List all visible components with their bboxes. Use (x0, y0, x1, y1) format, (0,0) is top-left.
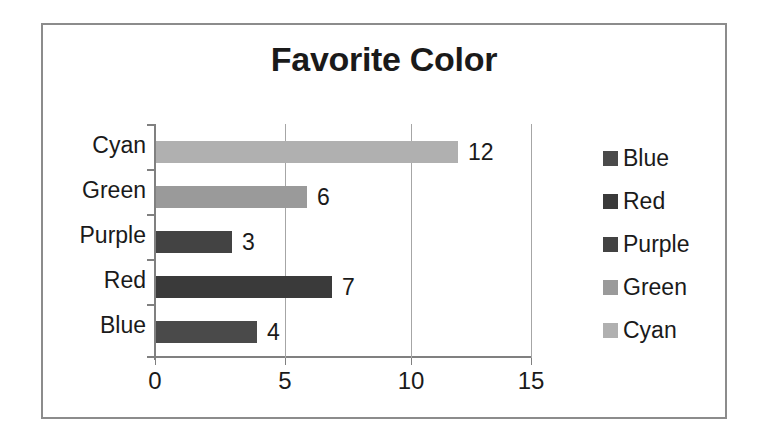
chart-title: Favorite Color (43, 41, 725, 78)
legend-swatch-icon-red (603, 194, 618, 209)
y-tick-2 (147, 214, 154, 216)
plot-area: 12 6 3 7 4 (154, 132, 532, 358)
x-tick-0 (155, 358, 156, 365)
data-label-blue: 4 (267, 321, 280, 343)
bar-red[interactable] (156, 276, 332, 298)
legend-item-purple[interactable]: Purple (603, 223, 723, 266)
x-axis-tick-labels: 0 5 10 15 (154, 367, 532, 399)
legend-swatch-icon-purple (603, 237, 618, 252)
y-tick-3 (147, 259, 154, 261)
legend-item-cyan[interactable]: Cyan (603, 309, 723, 352)
chart-frame: Favorite Color Blue Red Purple Green Cya… (41, 23, 727, 419)
data-label-purple: 3 (242, 231, 255, 253)
data-label-red: 7 (342, 276, 355, 298)
data-label-green: 6 (317, 186, 330, 208)
x-tick-label-0: 0 (148, 367, 161, 395)
x-tick-10 (411, 358, 412, 365)
bar-purple[interactable] (156, 231, 232, 253)
legend-swatch-icon-green (603, 280, 618, 295)
x-tick-label-5: 5 (278, 367, 291, 395)
y-axis-label-blue: Blue (100, 314, 146, 336)
legend-label-red: Red (623, 190, 665, 213)
x-tick-label-15: 15 (518, 367, 545, 395)
x-tick-label-10: 10 (398, 367, 425, 395)
y-axis-category-labels: Blue Red Purple Green Cyan (43, 132, 146, 358)
legend-label-purple: Purple (623, 233, 689, 256)
y-tick-1 (147, 169, 154, 171)
y-axis-label-purple: Purple (80, 224, 146, 246)
bar-cyan[interactable] (156, 141, 458, 163)
x-axis-line (154, 356, 532, 358)
bar-green[interactable] (156, 186, 307, 208)
legend-label-blue: Blue (623, 147, 669, 170)
legend-item-red[interactable]: Red (603, 180, 723, 223)
y-tick-4 (147, 304, 154, 306)
y-axis-label-red: Red (104, 269, 146, 291)
legend-swatch-icon-cyan (603, 323, 618, 338)
x-tick-15 (531, 358, 532, 365)
x-tick-5 (285, 358, 286, 365)
chart-legend: Blue Red Purple Green Cyan (603, 137, 723, 352)
legend-item-blue[interactable]: Blue (603, 137, 723, 180)
data-label-cyan: 12 (468, 141, 494, 163)
legend-label-green: Green (623, 276, 687, 299)
gridline-15 (531, 124, 532, 358)
legend-swatch-icon-blue (603, 151, 618, 166)
y-tick-top (147, 124, 154, 126)
legend-label-cyan: Cyan (623, 319, 677, 342)
y-axis-label-cyan: Cyan (92, 134, 146, 156)
bar-blue[interactable] (156, 321, 257, 343)
y-axis-label-green: Green (82, 179, 146, 201)
legend-item-green[interactable]: Green (603, 266, 723, 309)
y-tick-bottom (147, 356, 154, 358)
